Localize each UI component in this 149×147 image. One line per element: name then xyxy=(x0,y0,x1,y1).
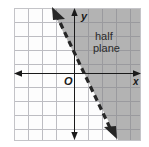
x-axis-label: x xyxy=(132,76,139,87)
coordinate-plane-graphic: y x O half plane xyxy=(0,0,149,147)
half-plane-label-line1: half xyxy=(95,30,114,42)
half-plane-figure: y x O half plane xyxy=(0,0,149,147)
y-axis-label: y xyxy=(80,10,88,22)
half-plane-label-line2: plane xyxy=(93,42,120,54)
origin-label: O xyxy=(64,75,73,87)
